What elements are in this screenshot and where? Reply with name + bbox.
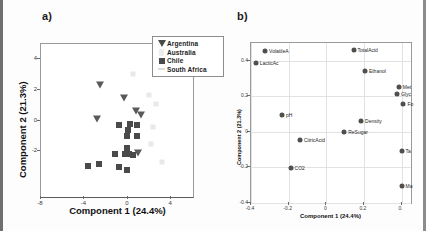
data-point-australia	[150, 125, 155, 130]
loading-point-ethanol	[362, 69, 367, 74]
y-tick-label: -0.2	[234, 163, 248, 169]
data-point-chile	[112, 151, 118, 157]
gridline-horizontal	[251, 203, 411, 204]
x-tick-mark	[83, 196, 84, 199]
y-tick-mark	[37, 150, 40, 151]
data-point-argentina	[96, 82, 104, 89]
loading-point-met	[396, 84, 401, 89]
loading-point-citricacid	[297, 137, 302, 142]
y-tick-label: 0	[27, 117, 37, 123]
data-point-argentina	[137, 112, 145, 119]
x-tick-mark	[127, 196, 128, 199]
panel-a-x-axis-title: Component 1 (24.4%)	[30, 205, 205, 216]
legend-item-south-africa[interactable]: South Africa	[156, 65, 221, 73]
data-point-argentina	[93, 115, 101, 122]
loading-point-ph	[280, 113, 285, 118]
loading-label-density: Density	[365, 118, 382, 124]
triangle-down-icon	[156, 40, 167, 47]
data-point-chile	[85, 163, 91, 169]
gridline-vertical	[402, 43, 403, 203]
legend-label: Australia	[167, 49, 196, 56]
data-point-chile	[124, 145, 130, 151]
data-point-chile	[116, 122, 122, 128]
panel-b-label: b)	[237, 10, 248, 22]
x-tick-label: 0	[316, 205, 334, 211]
data-point-south-africa	[154, 102, 159, 107]
data-point-australia	[147, 93, 152, 98]
gridline-horizontal	[251, 132, 411, 133]
x-tick-mark	[170, 196, 171, 199]
panel-b-y-axis-title: Component 2 (21.3%)	[236, 109, 242, 165]
panel-b-loadings-plot: b) VolatileALacticAcTotalAcidEthanolMetG…	[213, 0, 426, 231]
data-point-chile	[96, 161, 102, 167]
data-point-chile	[116, 164, 122, 170]
data-point-chile	[124, 133, 130, 139]
loading-point-ma	[399, 184, 404, 189]
panel-a-label: a)	[42, 10, 52, 22]
legend-label: Argentina	[167, 40, 198, 47]
data-point-south-africa	[159, 159, 164, 164]
y-tick-mark	[37, 89, 40, 90]
data-point-argentina	[120, 94, 128, 101]
loading-point-fo	[401, 102, 406, 107]
legend-item-argentina[interactable]: Argentina	[156, 40, 221, 48]
loading-point-ta	[399, 149, 404, 154]
legend-label: Chile	[167, 57, 183, 64]
loading-label-glyc: Glyc	[401, 91, 411, 97]
panel-a-scores-plot: a) Component 2 (21.3%) Component 1 (24.4…	[0, 0, 213, 231]
gridline-horizontal	[251, 167, 411, 168]
loading-point-co2	[288, 166, 293, 171]
data-point-chile	[127, 121, 133, 127]
panel-a-legend: Argentina Australia Chile South Africa	[152, 36, 224, 77]
x-tick-label: -0.2	[279, 205, 297, 211]
loading-point-resugar	[342, 129, 347, 134]
square-icon	[156, 58, 167, 64]
figure-root: a) Component 2 (21.3%) Component 1 (24.4…	[0, 0, 426, 231]
x-tick-label: -8	[35, 200, 45, 206]
data-point-chile	[124, 167, 130, 173]
y-tick-label: -0.4	[234, 199, 248, 205]
loading-label-fo: Fo	[407, 101, 413, 107]
loading-label-ethanol: Ethanol	[369, 68, 386, 74]
loading-label-citricacid: CitricAcid	[304, 137, 325, 143]
loading-label-resugar: ReSugar	[348, 129, 368, 135]
legend-item-australia[interactable]: Australia	[156, 48, 221, 56]
x-tick-label: -4	[78, 200, 88, 206]
x-tick-label: 4	[165, 200, 175, 206]
gridline-vertical	[326, 43, 327, 203]
loading-label-lacticac: LacticAc	[260, 60, 279, 66]
loading-label-met: Met	[403, 84, 411, 90]
x-tick-label: -0.4	[241, 205, 259, 211]
gridline-vertical	[289, 43, 290, 203]
loading-label-totalacid: TotalAcid	[358, 47, 378, 53]
loading-label-ta: Ta	[406, 148, 411, 154]
panel-b-plot-area: VolatileALacticAcTotalAcidEthanolMetGlyc…	[250, 42, 412, 204]
y-tick-label: -2	[27, 147, 37, 153]
data-point-chile	[130, 152, 136, 158]
loading-label-ma: Ma	[406, 183, 413, 189]
y-tick-label: 2	[27, 86, 37, 92]
y-tick-label: 0.2	[234, 92, 248, 98]
loading-point-density	[359, 119, 364, 124]
gridline-vertical	[251, 43, 252, 203]
x-tick-mark	[40, 196, 41, 199]
legend-label: South Africa	[167, 66, 207, 73]
y-tick-mark	[37, 120, 40, 121]
triangle-up-light-icon	[156, 49, 167, 56]
x-tick-label: 0.2	[354, 205, 372, 211]
data-point-south-africa	[148, 142, 153, 147]
data-point-australia	[130, 71, 135, 76]
panel-a-y-axis-title: Component 2 (21.3%)	[17, 81, 28, 178]
y-tick-label: 4	[27, 55, 37, 61]
panel-b-x-axis-title: Component 1 (24.4%)	[243, 213, 418, 219]
loading-point-volatilea	[263, 49, 268, 54]
y-tick-label: 0	[234, 128, 248, 134]
x-tick-label: 0	[122, 200, 132, 206]
loading-point-glyc	[394, 91, 399, 96]
gridline-horizontal	[251, 96, 411, 97]
legend-item-chile[interactable]: Chile	[156, 57, 221, 65]
loading-point-lacticac	[253, 61, 258, 66]
dash-light-icon	[156, 68, 167, 70]
loading-label-ph: pH	[286, 112, 292, 118]
loading-label-volatilea: VolatileA	[269, 48, 288, 54]
